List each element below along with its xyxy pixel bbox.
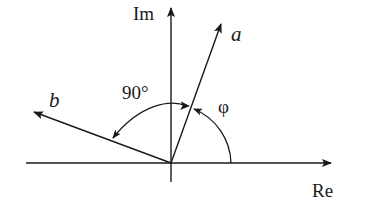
vector-a	[171, 24, 221, 163]
phi-angle-arc	[194, 109, 231, 163]
real-axis-label: Re	[312, 180, 333, 201]
vector-b	[34, 112, 171, 163]
imag-axis-label: Im	[133, 3, 154, 24]
complex-plane-diagram: Im Re a b 90° φ	[0, 0, 369, 212]
right-angle-arc	[113, 103, 187, 138]
right-angle-arc-arrowhead	[180, 102, 190, 111]
vector-a-label: a	[231, 22, 242, 46]
right-angle-label: 90°	[122, 82, 149, 103]
vector-b-label: b	[49, 88, 60, 112]
phi-angle-label: φ	[218, 96, 229, 117]
